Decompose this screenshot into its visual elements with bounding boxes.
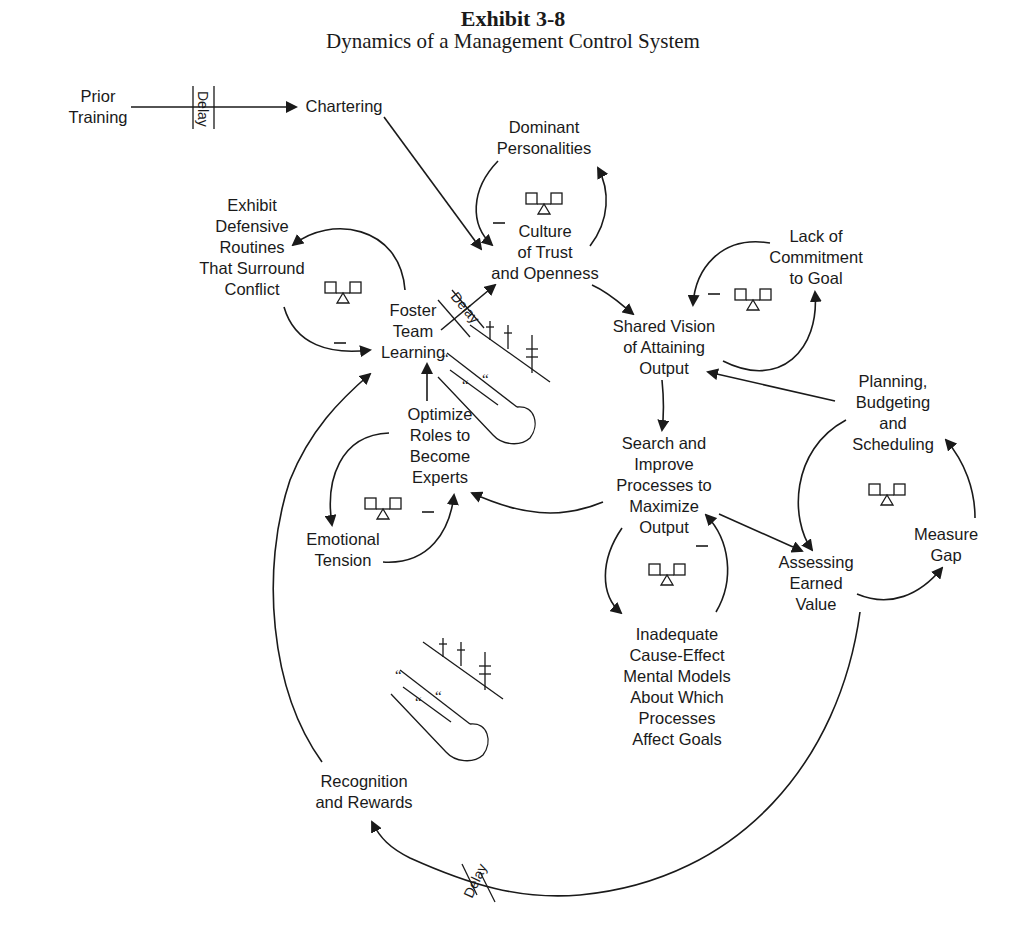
svg-text:Scheduling: Scheduling (852, 435, 934, 453)
svg-text:Chartering: Chartering (305, 97, 382, 115)
link-prior-training-to-chartering: Delay (131, 86, 296, 129)
link-foster-learning-to-culture: Delay (438, 285, 495, 337)
svg-text:of Trust: of Trust (517, 243, 572, 261)
svg-text:Exhibit: Exhibit (227, 196, 277, 214)
svg-text:Personalities: Personalities (497, 139, 591, 157)
balance-scale-icon (365, 498, 401, 519)
link-search-to-earned-value (719, 514, 802, 551)
svg-text:“: “ (482, 371, 489, 387)
svg-text:“: “ (395, 667, 402, 683)
node-emotional-tension: Emotional Tension (306, 530, 379, 569)
node-shared-vision: Shared Vision of Attaining Output (613, 317, 715, 377)
svg-text:Optimize: Optimize (407, 405, 472, 423)
link-chartering-to-culture (384, 117, 481, 249)
causal-loop-diagram: Prior Training Chartering Dominant Perso… (0, 0, 1026, 950)
node-chartering: Chartering (305, 97, 382, 115)
svg-text:Conflict: Conflict (224, 280, 279, 298)
svg-text:“: “ (442, 350, 449, 366)
node-prior-training: Prior Training (69, 87, 128, 126)
svg-text:“: “ (462, 377, 469, 393)
svg-text:Emotional: Emotional (306, 530, 379, 548)
svg-text:Commitment: Commitment (769, 248, 863, 266)
svg-text:Recognition: Recognition (320, 772, 407, 790)
loop-defensive-routines (284, 229, 405, 351)
svg-text:Become: Become (410, 447, 471, 465)
svg-text:Budgeting: Budgeting (856, 393, 930, 411)
link-culture-to-shared-vision (592, 285, 633, 314)
svg-text:Assessing: Assessing (778, 553, 853, 571)
node-dominant-personalities: Dominant Personalities (497, 118, 591, 157)
svg-text:Processes to: Processes to (616, 476, 711, 494)
node-optimize-roles: Optimize Roles to Become Experts (407, 405, 472, 486)
svg-text:Output: Output (639, 518, 689, 536)
svg-text:Learning: Learning (381, 343, 445, 361)
svg-text:Shared Vision: Shared Vision (613, 317, 715, 335)
delay-label: Delay (195, 91, 211, 127)
svg-text:Defensive: Defensive (215, 217, 288, 235)
svg-text:Gap: Gap (930, 546, 961, 564)
svg-text:Measure: Measure (914, 525, 978, 543)
svg-text:Improve: Improve (634, 455, 694, 473)
node-culture-of-trust: Culture of Trust and Openness (491, 222, 598, 282)
node-planning-budgeting: Planning, Budgeting and Scheduling (852, 372, 934, 453)
balance-scale-icon (735, 289, 771, 310)
svg-text:of Attaining: of Attaining (623, 338, 705, 356)
node-foster-team-learning: Foster Team Learning (381, 301, 445, 361)
svg-text:About Which: About Which (630, 688, 724, 706)
svg-text:Foster: Foster (390, 301, 437, 319)
svg-text:Processes: Processes (638, 709, 715, 727)
svg-text:Affect Goals: Affect Goals (632, 730, 722, 748)
svg-text:Routines: Routines (219, 238, 284, 256)
svg-text:That Surround: That Surround (199, 259, 304, 277)
svg-text:Culture: Culture (518, 222, 571, 240)
balance-scale-icon (526, 193, 562, 214)
svg-text:Maximize: Maximize (629, 497, 699, 515)
svg-text:Training: Training (69, 108, 128, 126)
svg-text:Experts: Experts (412, 468, 468, 486)
node-exhibit-defensive-routines: Exhibit Defensive Routines That Surround… (199, 196, 304, 298)
svg-text:Tension: Tension (315, 551, 372, 569)
svg-text:Lack of: Lack of (789, 227, 843, 245)
svg-text:to Goal: to Goal (789, 269, 842, 287)
node-lack-of-commitment: Lack of Commitment to Goal (769, 227, 863, 287)
svg-text:Search and: Search and (622, 434, 706, 452)
svg-text:Roles to: Roles to (410, 426, 471, 444)
node-assessing-earned-value: Assessing Earned Value (778, 553, 853, 613)
node-inadequate-mental-models: Inadequate Cause-Effect Mental Models Ab… (623, 625, 730, 748)
svg-text:Value: Value (796, 595, 837, 613)
ski-slope-icon: “““ (391, 638, 503, 761)
svg-text:Mental Models: Mental Models (623, 667, 730, 685)
svg-text:Planning,: Planning, (859, 372, 928, 390)
node-search-improve-processes: Search and Improve Processes to Maximize… (616, 434, 711, 536)
link-earned-value-to-recognition: Delay (372, 612, 860, 902)
balance-scale-icon (649, 564, 685, 585)
svg-text:Team: Team (393, 322, 433, 340)
node-recognition-rewards: Recognition and Rewards (315, 772, 412, 811)
svg-text:and Openness: and Openness (491, 264, 598, 282)
svg-text:and Rewards: and Rewards (315, 793, 412, 811)
svg-text:Dominant: Dominant (509, 118, 580, 136)
balance-scale-icon (325, 282, 361, 303)
svg-text:Earned: Earned (789, 574, 842, 592)
node-measure-gap: Measure Gap (914, 525, 978, 564)
balance-scale-icon (869, 484, 905, 505)
svg-text:Cause-Effect: Cause-Effect (629, 646, 724, 664)
link-shared-vision-to-search (662, 380, 664, 430)
svg-text:Output: Output (639, 359, 689, 377)
svg-text:Inadequate: Inadequate (636, 625, 719, 643)
svg-text:Prior: Prior (81, 87, 116, 105)
svg-text:“: “ (415, 694, 422, 710)
link-search-to-optimize (472, 493, 603, 513)
svg-text:and: and (879, 414, 907, 432)
svg-text:“: “ (435, 688, 442, 704)
link-planning-to-shared-vision (708, 372, 835, 401)
delay-label: Delay (460, 861, 490, 900)
